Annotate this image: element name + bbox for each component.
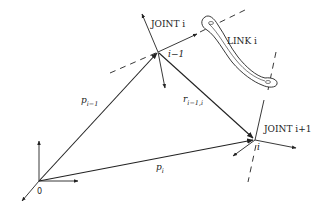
kinematic-diagram: 0 JOINT i i−1 LINK i JOINT i+1 i pi−1 ri… <box>0 0 328 211</box>
p-i-minus-1-sub: i−1 <box>87 100 99 108</box>
frame-i-x-axis-icon <box>255 140 296 148</box>
joint-i-label: JOINT i <box>150 19 185 29</box>
frame-i-y-axis-icon <box>233 140 255 156</box>
r-sub: i−1,i <box>187 99 203 107</box>
frame-i-label: i <box>257 142 260 152</box>
link-i-label: LINK i <box>227 36 257 46</box>
r-label: ri−1,i <box>183 94 203 107</box>
p-i-label: pi <box>156 162 164 175</box>
p-i-minus-1-label: pi−1 <box>81 95 98 108</box>
origin-label: 0 <box>37 187 42 196</box>
origin-frame: 0 <box>22 141 78 201</box>
joint-i-axis-dashed-icon <box>110 52 158 73</box>
p-i-sub: i <box>162 167 164 175</box>
frame-i-minus-1-label: i−1 <box>168 49 184 59</box>
joint-i-plus-1-label: JOINT i+1 <box>263 124 311 134</box>
frame-i-z-axis-icon <box>255 100 264 140</box>
joint-i-plus-1-axis-dashed-icon <box>248 145 256 182</box>
link-i-icon <box>202 16 277 87</box>
